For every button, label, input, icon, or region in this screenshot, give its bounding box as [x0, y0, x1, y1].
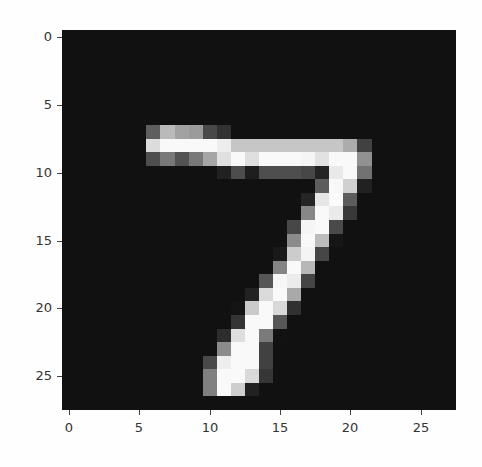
pixel-cell [245, 30, 259, 44]
pixel-cell [315, 329, 329, 343]
pixel-cell [245, 315, 259, 329]
pixel-cell [146, 166, 160, 180]
pixel-cell [414, 139, 428, 153]
pixel-cell [259, 220, 273, 234]
pixel-cell [273, 261, 287, 275]
pixel-cell [372, 98, 386, 112]
pixel-cell [146, 152, 160, 166]
pixel-cell [400, 261, 414, 275]
pixel-cell [175, 220, 189, 234]
pixel-cell [245, 356, 259, 370]
pixel-cell [146, 98, 160, 112]
pixel-cell [160, 329, 174, 343]
pixel-cell [189, 125, 203, 139]
pixel-cell [329, 111, 343, 125]
pixel-cell [160, 369, 174, 383]
pixel-cell [301, 234, 315, 248]
pixel-cell [146, 30, 160, 44]
y-tick [57, 308, 62, 309]
pixel-cell [301, 166, 315, 180]
pixel-cell [329, 247, 343, 261]
pixel-cell [357, 288, 371, 302]
pixel-cell [428, 369, 442, 383]
pixel-cell [428, 111, 442, 125]
pixel-cell [90, 301, 104, 315]
pixel-cell [245, 220, 259, 234]
pixel-cell [118, 329, 132, 343]
pixel-cell [301, 30, 315, 44]
pixel-cell [90, 57, 104, 71]
pixel-cell [357, 356, 371, 370]
pixel-cell [132, 152, 146, 166]
pixel-cell [329, 71, 343, 85]
pixel-cell [90, 274, 104, 288]
pixel-cell [132, 111, 146, 125]
pixel-cell [189, 166, 203, 180]
pixel-cell [428, 139, 442, 153]
pixel-cell [386, 220, 400, 234]
pixel-cell [231, 193, 245, 207]
pixel-cell [76, 247, 90, 261]
pixel-cell [62, 261, 76, 275]
pixel-cell [90, 206, 104, 220]
pixel-cell [90, 139, 104, 153]
pixel-cell [329, 356, 343, 370]
pixel-cell [259, 315, 273, 329]
pixel-cell [315, 396, 329, 410]
pixel-cell [343, 301, 357, 315]
pixel-cell [386, 247, 400, 261]
pixel-cell [146, 84, 160, 98]
pixel-cell [287, 356, 301, 370]
pixel-cell [400, 84, 414, 98]
pixel-cell [76, 179, 90, 193]
pixel-cell [146, 329, 160, 343]
pixel-cell [400, 220, 414, 234]
pixel-cell [203, 125, 217, 139]
pixel-cell [132, 84, 146, 98]
pixel-cell [442, 301, 456, 315]
pixel-cell [175, 71, 189, 85]
pixel-cell [329, 44, 343, 58]
pixel-cell [104, 166, 118, 180]
pixel-cell [203, 193, 217, 207]
pixel-cell [259, 111, 273, 125]
pixel-cell [76, 274, 90, 288]
pixel-cell [189, 301, 203, 315]
pixel-cell [442, 71, 456, 85]
pixel-cell [217, 57, 231, 71]
pixel-cell [76, 44, 90, 58]
pixel-cell [132, 139, 146, 153]
pixel-cell [329, 220, 343, 234]
pixel-cell [231, 356, 245, 370]
pixel-cell [287, 98, 301, 112]
pixel-cell [301, 71, 315, 85]
pixel-cell [203, 383, 217, 397]
pixel-cell [217, 369, 231, 383]
pixel-cell [287, 139, 301, 153]
pixel-cell [217, 383, 231, 397]
pixel-cell [160, 301, 174, 315]
pixel-cell [315, 234, 329, 248]
pixel-cell [217, 206, 231, 220]
pixel-cell [259, 369, 273, 383]
pixel-cell [372, 30, 386, 44]
pixel-cell [76, 220, 90, 234]
pixel-cell [428, 57, 442, 71]
pixel-cell [414, 274, 428, 288]
pixel-cell [273, 342, 287, 356]
pixel-cell [400, 152, 414, 166]
pixel-cell [386, 383, 400, 397]
pixel-cell [203, 315, 217, 329]
pixel-cell [146, 261, 160, 275]
pixel-cell [175, 206, 189, 220]
pixel-cell [231, 98, 245, 112]
pixel-cell [231, 44, 245, 58]
pixel-cell [146, 396, 160, 410]
pixel-cell [231, 288, 245, 302]
pixel-cell [76, 111, 90, 125]
pixel-cell [189, 152, 203, 166]
pixel-cell [400, 139, 414, 153]
pixel-cell [76, 301, 90, 315]
pixel-cell [160, 396, 174, 410]
pixel-cell [104, 396, 118, 410]
